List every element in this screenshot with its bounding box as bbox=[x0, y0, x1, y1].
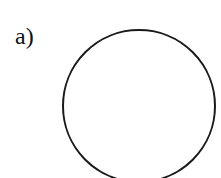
circle-shape bbox=[63, 30, 215, 178]
diagram-canvas: a) bbox=[0, 0, 221, 178]
circle-figure bbox=[0, 0, 221, 178]
